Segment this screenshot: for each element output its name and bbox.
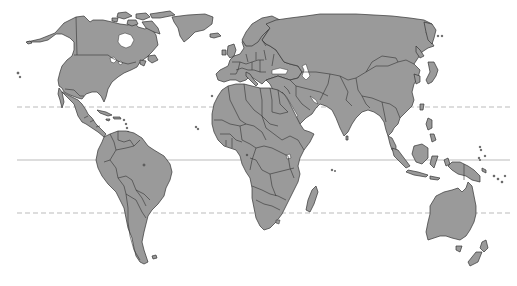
new-zealand <box>468 240 488 266</box>
sri-lanka <box>346 136 348 140</box>
south-america <box>96 131 172 264</box>
greenland <box>172 14 221 42</box>
north-america <box>17 16 158 108</box>
australia <box>426 182 476 252</box>
madagascar <box>306 186 318 212</box>
central-america <box>62 92 129 137</box>
southeast-asia <box>388 118 506 183</box>
world-map <box>0 0 517 286</box>
